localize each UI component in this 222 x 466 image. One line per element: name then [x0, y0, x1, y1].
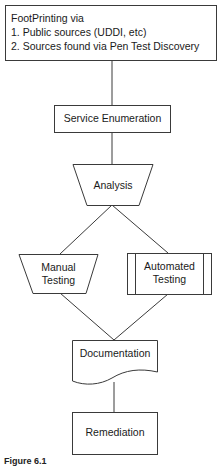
edge-analysis-manual — [60, 205, 112, 254]
edge-automated-documentation — [114, 294, 168, 340]
manual-testing-line-1: Manual — [19, 261, 98, 274]
automated-testing-line-1: Automated — [136, 260, 203, 273]
service-enumeration-label: Service Enumeration — [54, 112, 171, 125]
documentation-label: Documentation — [72, 347, 158, 360]
remediation-label: Remediation — [72, 426, 158, 439]
automated-testing-line-2: Testing — [136, 273, 203, 286]
figure-caption: Figure 6.1 — [4, 456, 47, 466]
analysis-label: Analysis — [73, 179, 153, 192]
edge-analysis-automated — [112, 205, 168, 253]
manual-testing-line-2: Testing — [19, 274, 98, 287]
footprinting-line-1: FootPrinting via — [11, 11, 199, 25]
automated-testing-label: Automated Testing — [136, 260, 203, 286]
footprinting-line-2: 1. Public sources (UDDI, etc) — [11, 25, 199, 39]
footprinting-line-3: 2. Sources found via Pen Test Discovery — [11, 39, 199, 53]
footprinting-text: FootPrinting via 1. Public sources (UDDI… — [11, 11, 199, 53]
manual-testing-label: Manual Testing — [19, 261, 98, 287]
edge-manual-documentation — [60, 293, 114, 340]
